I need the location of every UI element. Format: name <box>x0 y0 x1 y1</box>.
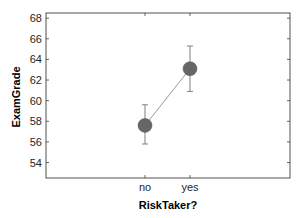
y-tick-label: 56 <box>30 136 42 148</box>
y-tick-label: 68 <box>30 12 42 24</box>
data-point-marker <box>138 118 152 132</box>
x-tick-label: no <box>139 181 151 193</box>
plot-area <box>46 13 290 178</box>
chart: 5456586062646668 noyes RiskTaker? ExamGr… <box>0 0 303 218</box>
x-axis-title: RiskTaker? <box>139 199 198 211</box>
y-axis-title: ExamGrade <box>10 66 22 127</box>
plot-frame <box>46 13 290 178</box>
y-tick-label: 54 <box>30 157 42 169</box>
y-tick-label: 62 <box>30 74 42 86</box>
data-point-marker <box>183 62 197 76</box>
y-tick-label: 66 <box>30 33 42 45</box>
x-tick-label: yes <box>181 181 199 193</box>
y-tick-label: 60 <box>30 95 42 107</box>
y-tick-label: 64 <box>30 53 42 65</box>
y-tick-label: 58 <box>30 115 42 127</box>
